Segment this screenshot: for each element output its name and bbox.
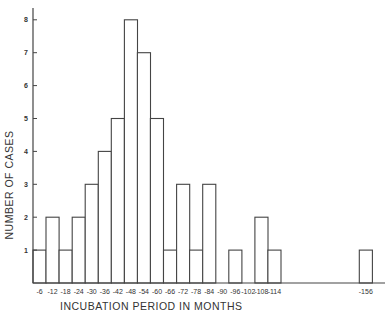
x-tick-label: -24 [74,288,84,295]
histogram-bar [268,250,281,283]
histogram-bar [124,20,137,283]
histogram-bar [359,250,372,283]
histogram-bar [150,119,163,284]
histogram-bar [85,184,98,283]
histogram-bar [46,217,59,283]
y-tick-label: 1 [24,247,28,254]
y-tick-label: 5 [24,115,28,122]
histogram-bar [164,250,177,283]
x-tick-label: -54 [139,288,149,295]
y-tick-label: 8 [24,16,28,23]
bars-group [33,20,372,283]
x-tick-label: -90 [217,288,227,295]
x-tick-label: -108 [254,288,268,295]
x-tick-label: -12 [48,288,58,295]
histogram-bar [190,250,203,283]
histogram-bar [229,250,242,283]
histogram-bar [59,250,72,283]
y-axis-title: NUMBER OF CASES [3,130,15,239]
x-tick-label: -102 [241,288,255,295]
y-tick-label: 6 [24,82,28,89]
x-tick-label: -18 [61,288,71,295]
y-tick-label: 3 [24,181,28,188]
x-tick-label: -96 [230,288,240,295]
y-tick-label: 7 [24,49,28,56]
x-tick-label: -42 [113,288,123,295]
histogram-chart: 12345678 -6-12-18-24-30-36-42-48-54-60-6… [0,0,390,317]
histogram-bar [33,250,46,283]
x-tick-label: -60 [152,288,162,295]
histogram-bar [203,184,216,283]
histogram-bar [177,184,190,283]
y-ticks-group: 12345678 [24,16,37,253]
x-tick-label: -84 [204,288,214,295]
x-tick-label: -6 [36,288,42,295]
histogram-bar [137,53,150,283]
x-tick-label: -36 [100,288,110,295]
x-tick-label: -156 [359,288,373,295]
x-tick-label: -30 [87,288,97,295]
y-tick-label: 4 [24,148,28,155]
y-tick-label: 2 [24,214,28,221]
x-tick-label: -48 [126,288,136,295]
x-tick-label: -66 [165,288,175,295]
x-ticks-group: -6-12-18-24-30-36-42-48-54-60-66-72-78-8… [36,288,373,295]
x-tick-label: -78 [191,288,201,295]
x-tick-label: -114 [268,288,282,295]
x-tick-label: -72 [178,288,188,295]
histogram-bar [111,119,124,284]
histogram-bar [72,217,85,283]
histogram-bar [255,217,268,283]
histogram-bar [98,151,111,283]
x-axis-title: INCUBATION PERIOD IN MONTHS [60,300,242,312]
